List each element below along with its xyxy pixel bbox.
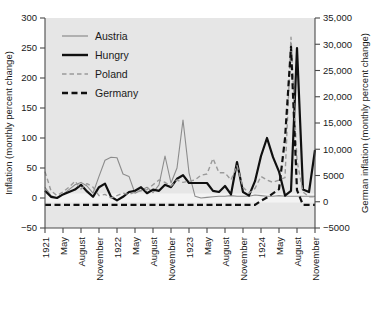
- zero-reference-band: [45, 194, 315, 203]
- y-tick-label-right: 20,000: [323, 91, 352, 102]
- legend-label-hungry: Hungry: [95, 49, 130, 61]
- x-tick-label: 1923: [184, 237, 195, 258]
- y-tick-label-left: 50: [26, 162, 37, 173]
- y-tick-label-left: 100: [21, 132, 37, 143]
- x-tick-label: May: [202, 237, 213, 255]
- x-tick-label: November: [238, 237, 249, 281]
- x-tick-label: 1924: [256, 237, 267, 258]
- y-tick-label-left: 150: [21, 102, 37, 113]
- y-axis-label-right: German inflation (monthly percent change…: [359, 33, 370, 213]
- x-tick-label: May: [58, 237, 69, 255]
- x-tick-label: August: [76, 237, 87, 267]
- y-tick-label-left: 300: [21, 12, 37, 23]
- y-tick-label-right: 15,000: [323, 117, 352, 128]
- x-tick-label: August: [292, 237, 303, 267]
- x-tick-label: 1921: [40, 237, 51, 258]
- y-tick-label-left: 200: [21, 72, 37, 83]
- x-tick-label: November: [94, 237, 105, 281]
- y-tick-label-right: 35,000: [323, 12, 352, 23]
- legend-label-austria: Austria: [95, 30, 128, 42]
- x-tick-label: May: [130, 237, 141, 255]
- y-tick-label-right: 5000: [323, 170, 344, 181]
- y-tick-label-right: 30,000: [323, 39, 352, 50]
- x-tick-label: November: [166, 237, 177, 281]
- y-tick-label-left: 250: [21, 42, 37, 53]
- y-tick-label-right: 25,000: [323, 65, 352, 76]
- legend-label-germany: Germany: [95, 87, 139, 99]
- y-tick-label-right: 10,000: [323, 144, 352, 155]
- x-tick-label: August: [148, 237, 159, 267]
- y-tick-label-right: −5000: [323, 222, 350, 233]
- y-tick-label-left: −50: [21, 222, 37, 233]
- x-tick-label: May: [274, 237, 285, 255]
- y-tick-label-right: 0: [323, 196, 328, 207]
- x-tick-label: 1922: [112, 237, 123, 258]
- y-tick-label-left: 0: [32, 192, 37, 203]
- inflation-line-chart: 300250200150100500−5035,00030,00025,0002…: [0, 0, 378, 310]
- x-tick-label: August: [220, 237, 231, 267]
- chart-container: 300250200150100500−5035,00030,00025,0002…: [0, 0, 378, 310]
- y-axis-label-left: Inflation (monthly percent change): [3, 51, 14, 195]
- x-tick-label: November: [310, 237, 321, 281]
- legend-label-poland: Poland: [95, 68, 128, 80]
